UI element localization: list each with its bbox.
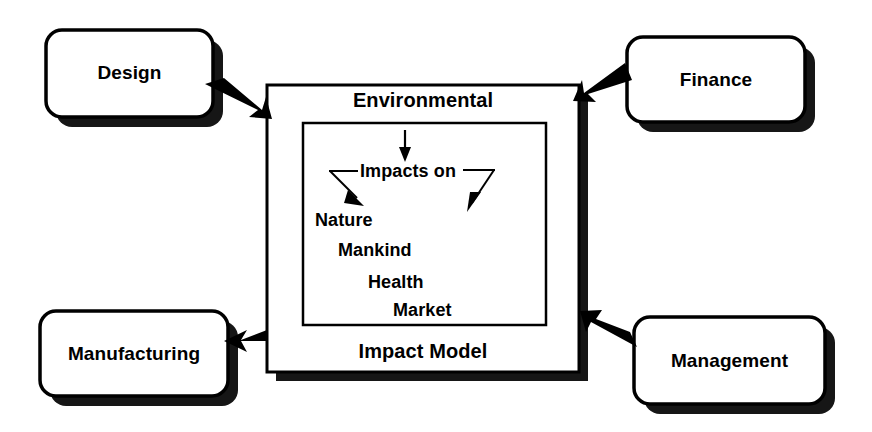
- finance-to-center-arrow: [573, 63, 632, 102]
- diagram-canvas: Design Finance Manufacturing Management …: [0, 0, 872, 432]
- impact-item-nature: Nature: [315, 210, 373, 231]
- center-box-group: [267, 85, 579, 372]
- manufacturing-node-label: Manufacturing: [40, 343, 228, 365]
- impact-item-mankind: Mankind: [338, 240, 412, 261]
- management-node-label: Management: [634, 350, 825, 372]
- impacts-on-label: Impacts on: [360, 161, 456, 182]
- impact-item-health: Health: [368, 272, 424, 293]
- center-header-label: Environmental: [267, 89, 579, 112]
- impact-item-market: Market: [393, 300, 452, 321]
- finance-node-label: Finance: [627, 69, 805, 91]
- center-footer-label: Impact Model: [267, 340, 579, 363]
- design-node-label: Design: [46, 62, 213, 84]
- management-to-center-arrow: [580, 310, 637, 347]
